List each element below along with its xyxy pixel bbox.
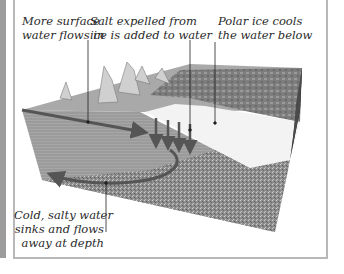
label-line: Salt expelled from [90, 14, 190, 28]
label-surface-inflow: More surface water flows in [22, 14, 86, 42]
label-line: Polar ice cools [218, 14, 318, 28]
label-deep-outflow: Cold, salty water sinks and flows away a… [14, 208, 104, 250]
label-line: water flows in [22, 28, 86, 42]
label-line: Cold, salty water [14, 208, 104, 222]
label-line: sinks and flows [14, 222, 104, 236]
label-salt-expelled: Salt expelled from ice is added to water [90, 14, 190, 42]
label-ice-cools: Polar ice cools the water below [218, 14, 318, 42]
label-line: ice is added to water [90, 28, 190, 42]
label-line: the water below [218, 28, 318, 42]
label-line: away at depth [14, 236, 104, 250]
label-line: More surface [22, 14, 86, 28]
